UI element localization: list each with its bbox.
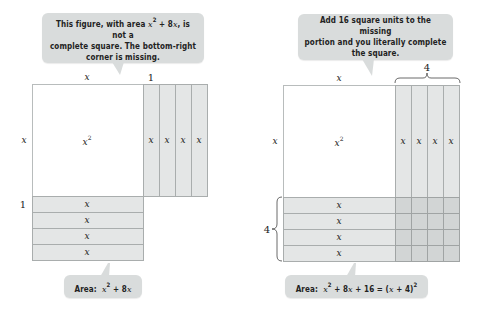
right-callout-area: Area: x2 + 8x + 16 = (x + 4)2 <box>285 275 428 298</box>
strip-label: x <box>84 247 89 257</box>
math-x: x <box>127 285 132 294</box>
strip-label: x <box>180 135 185 145</box>
side-label-x: x <box>21 135 26 145</box>
area-prefix: Area: <box>74 285 96 294</box>
callout-pointer <box>360 59 380 77</box>
callout-text: Add 16 square units to the missing <box>320 16 431 36</box>
side-brace-label: 4 <box>264 224 270 235</box>
unit-square <box>411 213 428 230</box>
unit-square <box>395 229 412 246</box>
unit-square <box>411 245 428 262</box>
top-brace <box>394 72 462 84</box>
area-text: + 4) <box>394 285 414 294</box>
area-prefix: Area: <box>296 285 318 294</box>
area-text: + 16 = ( <box>353 285 389 294</box>
strip-label: x <box>432 136 437 146</box>
right-callout-top: Add 16 square units to the missing porti… <box>298 14 453 60</box>
top-label-x: x <box>84 72 89 82</box>
exponent: 2 <box>88 134 92 141</box>
exponent: 2 <box>340 135 344 142</box>
side-label-one: 1 <box>20 199 26 210</box>
callout-text: portion and you literally complete <box>305 38 447 47</box>
strip-label: x <box>84 215 89 225</box>
callout-text: corner is missing. <box>86 53 160 62</box>
strip-label: x <box>196 135 201 145</box>
top-label-one: 1 <box>148 72 154 83</box>
strip-label: x <box>400 136 405 146</box>
left-callout-area: Area: x2 + 8x <box>64 275 142 298</box>
strip-label: x <box>448 136 453 146</box>
unit-square <box>427 213 444 230</box>
area-text: + 8 <box>110 285 126 294</box>
strip-label: x <box>336 232 341 242</box>
strip-label: x <box>148 135 153 145</box>
unit-square <box>427 197 444 214</box>
strip-label: x <box>84 199 89 209</box>
strip-label: x <box>164 135 169 145</box>
callout-text: complete square. The bottom-right <box>50 42 196 51</box>
callout-pointer <box>108 62 128 76</box>
callout-text: + 8 <box>156 20 172 29</box>
strip-label: x <box>416 136 421 146</box>
unit-square <box>443 213 460 230</box>
unit-square <box>411 229 428 246</box>
unit-square <box>427 245 444 262</box>
area-text: + 8 <box>332 285 348 294</box>
callout-text: This figure, with area <box>56 20 148 29</box>
strip-label: x <box>336 216 341 226</box>
unit-square <box>443 229 460 246</box>
strip-label: x <box>84 231 89 241</box>
top-label-x: x <box>336 73 341 83</box>
unit-square <box>411 197 428 214</box>
unit-square <box>443 245 460 262</box>
left-callout-top: This figure, with area x2 + 8x, is not a… <box>42 13 204 63</box>
top-brace-label: 4 <box>424 62 430 73</box>
unit-square <box>395 245 412 262</box>
strip-label: x <box>336 200 341 210</box>
strip-label: x <box>336 248 341 258</box>
unit-square <box>395 213 412 230</box>
square-label: x2 <box>335 135 344 148</box>
side-brace <box>271 196 283 262</box>
unit-square <box>395 197 412 214</box>
exponent: 2 <box>413 281 417 288</box>
callout-text: the square. <box>352 49 400 58</box>
unit-square <box>443 197 460 214</box>
side-label-x: x <box>272 136 277 146</box>
unit-square <box>427 229 444 246</box>
square-label: x2 <box>83 134 92 147</box>
